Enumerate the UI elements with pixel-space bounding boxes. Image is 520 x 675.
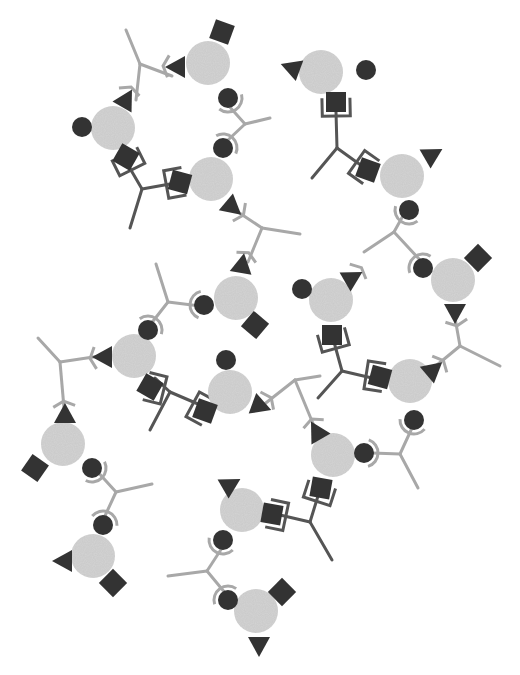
node-core xyxy=(214,276,258,320)
square-site xyxy=(322,325,342,345)
linker-arm xyxy=(460,346,500,366)
dark-linker xyxy=(312,112,362,178)
square-site xyxy=(326,92,346,112)
node-n2 xyxy=(72,84,145,176)
linker-arm xyxy=(168,571,207,576)
linker-arm xyxy=(364,232,394,252)
node-core xyxy=(388,359,432,403)
node-core xyxy=(189,157,233,201)
triangle-site xyxy=(277,54,303,82)
square-site xyxy=(260,502,283,525)
node-n8 xyxy=(364,354,449,434)
node-n9 xyxy=(409,244,492,326)
node-n5 xyxy=(90,316,167,404)
linker-arm xyxy=(245,118,270,124)
linker-arm xyxy=(116,484,152,492)
circle-site xyxy=(138,320,158,340)
circle-site xyxy=(213,138,233,158)
node-n7 xyxy=(301,416,378,506)
circle-site xyxy=(93,515,113,535)
triangle-site xyxy=(248,637,270,657)
light-linker xyxy=(364,214,420,260)
node-n11 xyxy=(21,401,106,482)
node-core xyxy=(299,50,343,94)
node-n13 xyxy=(209,469,289,554)
square-site xyxy=(136,373,163,400)
square-site xyxy=(309,476,332,499)
circle-site xyxy=(216,350,236,370)
node-n6 xyxy=(186,350,275,425)
square-site xyxy=(21,454,49,482)
node-n10 xyxy=(292,262,368,352)
circle-site xyxy=(194,295,214,315)
linker-arm xyxy=(262,380,295,406)
linker-arm xyxy=(295,376,320,380)
linker-arm xyxy=(156,264,168,302)
node-core xyxy=(71,534,115,578)
light-linker xyxy=(150,264,200,325)
linker-arm xyxy=(400,454,418,488)
linker-arm xyxy=(262,228,300,234)
node-core xyxy=(234,589,278,633)
node-core xyxy=(431,258,475,302)
circle-site xyxy=(404,410,424,430)
node-n15 xyxy=(277,50,376,116)
circle-site xyxy=(82,458,102,478)
square-site xyxy=(209,19,235,45)
light-linker xyxy=(372,428,418,488)
linker-arm xyxy=(310,522,332,560)
linker-arm xyxy=(312,148,337,178)
node-n1 xyxy=(163,19,242,112)
triangle-site xyxy=(52,550,72,572)
node-core xyxy=(309,278,353,322)
node-n3 xyxy=(164,134,249,223)
circle-site xyxy=(356,60,376,80)
linker-arm xyxy=(126,30,140,64)
node-core xyxy=(112,334,156,378)
circle-site xyxy=(399,200,419,220)
node-core xyxy=(41,422,85,466)
linker-arm xyxy=(38,338,60,362)
node-n4 xyxy=(190,251,269,339)
circle-site xyxy=(292,279,312,299)
light-linker xyxy=(168,548,226,594)
node-core xyxy=(380,154,424,198)
node-core xyxy=(91,106,135,150)
linker-arm xyxy=(318,371,342,398)
node-n16 xyxy=(348,139,447,224)
light-linker xyxy=(38,338,100,408)
circle-site xyxy=(413,258,433,278)
node-n12 xyxy=(52,511,127,597)
square-site xyxy=(168,170,192,194)
triangle-site xyxy=(420,139,448,168)
node-core xyxy=(186,41,230,85)
linker-arm xyxy=(372,453,400,454)
nodes-layer xyxy=(21,19,492,657)
circle-site xyxy=(218,88,238,108)
node-n14 xyxy=(214,578,296,657)
light-linker xyxy=(238,212,300,262)
assembly-diagram xyxy=(0,0,520,675)
circle-site xyxy=(72,117,92,137)
circle-site xyxy=(354,443,374,463)
linker-arm xyxy=(130,189,142,228)
circle-site xyxy=(213,530,233,550)
circle-site xyxy=(218,590,238,610)
